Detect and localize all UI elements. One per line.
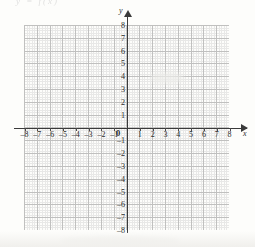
y-tick-label: –2 xyxy=(113,149,125,158)
y-tick-label: 7 xyxy=(113,34,125,43)
y-axis-label: y xyxy=(119,6,123,15)
x-tick-mark xyxy=(101,128,102,131)
y-tick-label: 4 xyxy=(113,72,125,81)
coordinate-plane-figure: y = f(x) x y 0 –8–7–6–5–4–3–2–112345678 … xyxy=(0,0,255,247)
y-tick-label: –7 xyxy=(113,213,125,222)
x-tick-mark xyxy=(50,128,51,131)
x-tick-mark xyxy=(217,128,218,131)
x-axis-line xyxy=(14,128,247,129)
x-tick-mark xyxy=(63,128,64,131)
x-tick-mark xyxy=(114,128,115,131)
y-tick-label: –3 xyxy=(113,162,125,171)
header-text-fragment: y = f(x) xyxy=(16,0,59,6)
page-edge-shadow xyxy=(0,231,255,247)
y-axis-line xyxy=(127,12,128,233)
paper-smudge xyxy=(150,72,184,84)
x-tick-mark xyxy=(165,128,166,131)
y-tick-label: 3 xyxy=(113,85,125,94)
y-tick-label: –6 xyxy=(113,200,125,209)
x-axis-label: x xyxy=(243,129,247,138)
x-tick-mark xyxy=(230,128,231,131)
y-tick-label: 1 xyxy=(113,111,125,120)
y-tick-label: –4 xyxy=(113,175,125,184)
y-tick-label: 2 xyxy=(113,98,125,107)
y-tick-label: –1 xyxy=(113,136,125,145)
x-tick-mark xyxy=(153,128,154,131)
x-tick-mark xyxy=(191,128,192,131)
y-tick-label: 6 xyxy=(113,47,125,56)
x-tick-mark xyxy=(204,128,205,131)
y-tick-label: –5 xyxy=(113,188,125,197)
x-tick-mark xyxy=(25,128,26,131)
y-tick-label: 5 xyxy=(113,59,125,68)
x-tick-mark xyxy=(37,128,38,131)
x-tick-label: 8 xyxy=(223,130,237,139)
x-tick-mark xyxy=(178,128,179,131)
y-tick-label: 8 xyxy=(113,21,125,30)
x-tick-mark xyxy=(76,128,77,131)
y-axis-arrow-icon xyxy=(124,10,132,17)
x-tick-mark xyxy=(89,128,90,131)
x-tick-mark xyxy=(140,128,141,131)
